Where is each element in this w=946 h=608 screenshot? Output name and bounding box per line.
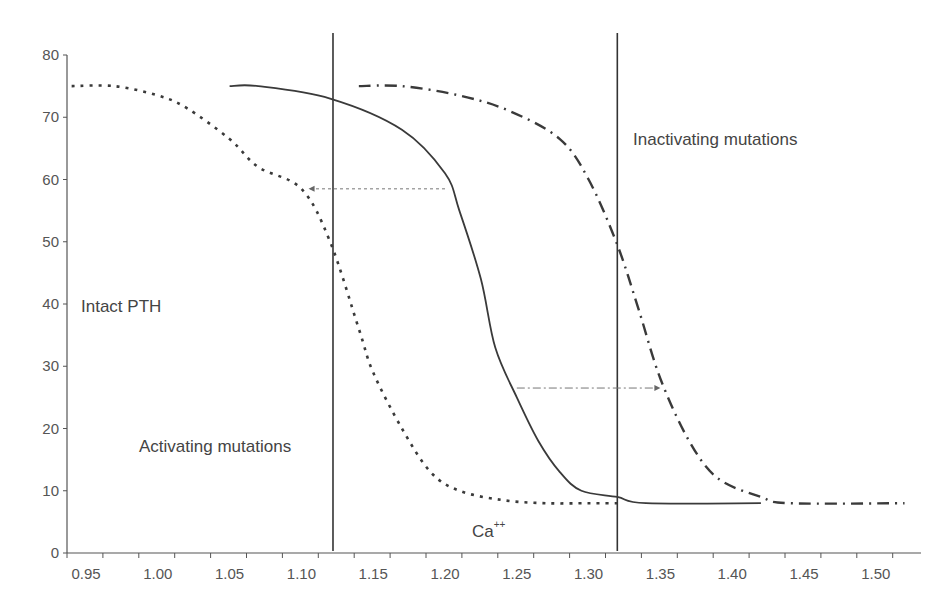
y-tick-label: 70 [42, 108, 59, 125]
x-tick-label: 1.05 [215, 565, 244, 582]
label-intact-pth: Intact PTH [81, 297, 161, 316]
y-tick-label: 60 [42, 171, 59, 188]
y-tick-label: 40 [42, 295, 59, 312]
x-tick-label: 1.00 [143, 565, 172, 582]
label-calcium-superscript: ++ [494, 519, 506, 530]
arrowhead-icon [654, 385, 660, 391]
y-tick-label: 30 [42, 357, 59, 374]
pth-calcium-chart: 010203040506070800.951.001.051.101.151.2… [0, 0, 946, 608]
reference-lines [333, 33, 617, 551]
x-tick-label: 1.50 [861, 565, 890, 582]
label-activating-mutations: Activating mutations [139, 437, 291, 456]
y-tick-label: 80 [42, 46, 59, 63]
x-tick-label: 1.45 [789, 565, 818, 582]
x-tick-label: 0.95 [71, 565, 100, 582]
y-tick-label: 0 [51, 544, 59, 561]
arrowhead-icon [309, 186, 315, 192]
y-tick-label: 20 [42, 420, 59, 437]
x-tick-label: 1.30 [574, 565, 603, 582]
x-tick-label: 1.10 [287, 565, 316, 582]
x-tick-label: 1.25 [502, 565, 531, 582]
label-calcium-base: Ca [472, 522, 494, 541]
y-tick-label: 10 [42, 482, 59, 499]
axis-ticks: 010203040506070800.951.001.051.101.151.2… [42, 46, 892, 582]
arrows [309, 186, 661, 391]
y-tick-label: 50 [42, 233, 59, 250]
x-tick-label: 1.35 [646, 565, 675, 582]
label-inactivating-mutations: Inactivating mutations [633, 130, 797, 149]
x-tick-label: 1.15 [359, 565, 388, 582]
label-calcium: Ca++ [472, 519, 506, 541]
x-tick-label: 1.20 [430, 565, 459, 582]
x-tick-label: 1.40 [718, 565, 747, 582]
curve-dash-dot [359, 85, 905, 503]
